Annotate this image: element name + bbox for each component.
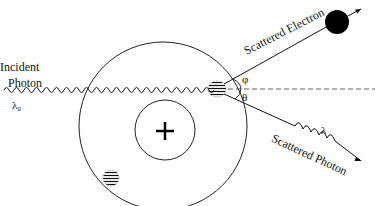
label-theta: θ [242,92,247,103]
electron-blob-orbit [103,170,119,186]
photon-arrowhead-icon [355,157,363,161]
label-photon: Photon [8,77,42,89]
label-lambda: λ [321,125,326,136]
photon-path [224,94,295,126]
electron-blob-collision [208,81,226,97]
scattered-electron [325,10,349,34]
label-phi: φ [242,74,248,85]
theta-arc [235,89,241,99]
label-incident: Incident [0,61,39,73]
compton-diagram [0,0,375,206]
label-lambda0: λ₀ [12,100,21,111]
